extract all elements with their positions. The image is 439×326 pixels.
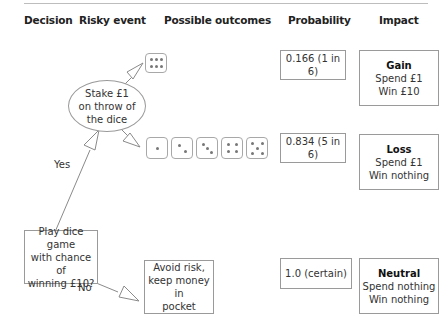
impact-gain: Gain Spend £1 Win £10 bbox=[359, 50, 439, 106]
die-face-four bbox=[221, 137, 243, 159]
risky-event-oval: Stake £1 on throw of the dice bbox=[68, 80, 146, 132]
avoid-line-3: pocket bbox=[162, 300, 195, 313]
die-face-one bbox=[146, 137, 168, 159]
impact-loss-title: Loss bbox=[386, 143, 411, 156]
decision-line-1: Play dice game bbox=[25, 225, 97, 251]
die-face-five bbox=[246, 137, 268, 159]
impact-neutral: Neutral Spend nothing Win nothing bbox=[359, 258, 439, 314]
impact-loss: Loss Spend £1 Win nothing bbox=[359, 134, 439, 190]
probability-loss: 0.834 (5 in 6) bbox=[280, 133, 346, 163]
risky-event-line-1: Stake £1 bbox=[85, 87, 129, 100]
probability-neutral-value: 1.0 (certain) bbox=[285, 267, 347, 280]
impact-neutral-line-2: Win nothing bbox=[369, 293, 429, 306]
probability-neutral: 1.0 (certain) bbox=[280, 258, 352, 289]
impact-gain-title: Gain bbox=[386, 59, 412, 72]
probability-gain: 0.166 (1 in 6) bbox=[280, 50, 346, 80]
impact-loss-line-1: Spend £1 bbox=[375, 156, 422, 169]
avoid-line-1: Avoid risk, bbox=[153, 261, 205, 274]
decision-box: Play dice game with chance of winning £1… bbox=[24, 230, 98, 284]
probability-loss-value: 0.834 (5 in 6) bbox=[281, 135, 345, 161]
impact-gain-line-2: Win £10 bbox=[378, 85, 419, 98]
impact-loss-line-2: Win nothing bbox=[369, 169, 429, 182]
impact-neutral-line-1: Spend nothing bbox=[363, 280, 436, 293]
die-face-two bbox=[171, 137, 193, 159]
probability-gain-value: 0.166 (1 in 6) bbox=[281, 52, 345, 78]
impact-neutral-title: Neutral bbox=[378, 267, 420, 280]
impact-gain-line-1: Spend £1 bbox=[375, 72, 422, 85]
branch-label-no: No bbox=[78, 282, 92, 293]
die-face-six bbox=[145, 53, 167, 73]
die-face-three bbox=[196, 137, 218, 159]
risky-event-line-3: the dice bbox=[87, 113, 127, 126]
decision-line-2: with chance of bbox=[25, 251, 97, 277]
avoid-line-2: keep money in bbox=[145, 274, 213, 300]
branch-label-yes: Yes bbox=[54, 159, 70, 170]
avoid-risk-box: Avoid risk, keep money in pocket bbox=[144, 260, 214, 314]
risky-event-line-2: on throw of bbox=[79, 100, 136, 113]
